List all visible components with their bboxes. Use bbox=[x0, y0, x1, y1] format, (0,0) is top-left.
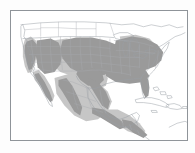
map-frame bbox=[10, 10, 188, 141]
distribution-map-figure: Distribution map of North America bbox=[0, 0, 195, 153]
map-canvas bbox=[11, 11, 187, 140]
